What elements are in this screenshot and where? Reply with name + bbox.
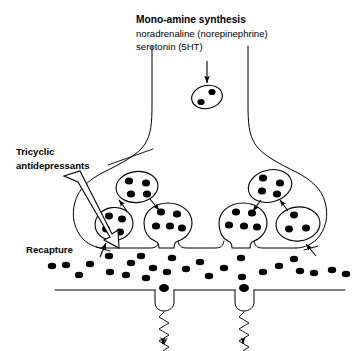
tricyclic-label-group: Tricyclic antidepressants [16,146,90,171]
receptor-2 [235,284,254,351]
synthesis-vesicle [189,83,224,112]
recapture-label: Recapture [26,244,73,255]
synthesis-heading: Mono-amine synthesis [136,14,246,25]
receptor-1 [155,284,174,351]
tricyclic-leader-line [108,149,153,165]
tricyclic-label-line2: antidepressants [16,160,90,171]
presynaptic-membrane-right [254,241,296,248]
vesicle-right-lower-right [274,205,321,243]
vesicle-left-lower-right-fusing [144,203,192,248]
synapse-diagram-svg: Mono-amine synthesis noradrenaline (nore… [0,0,361,351]
vesicle-right-top [245,165,295,207]
tricyclic-label-line1: Tricyclic [16,146,55,157]
synapse-diagram-figure: Mono-amine synthesis noradrenaline (nore… [0,0,361,351]
presynaptic-membrane-center [178,241,224,248]
vesicle-cluster-left [93,169,192,248]
synthesis-line-serotonin: serotonin (5HT) [136,41,203,52]
synthesis-line-noradrenaline: noradrenaline (norepinephrine) [136,28,268,39]
vesicle-left-top [114,169,159,204]
cleft-transmitter-group [48,253,350,281]
vesicle-right-lower-left-fusing [219,203,267,248]
vesicle-arrow-right-up [280,200,288,211]
